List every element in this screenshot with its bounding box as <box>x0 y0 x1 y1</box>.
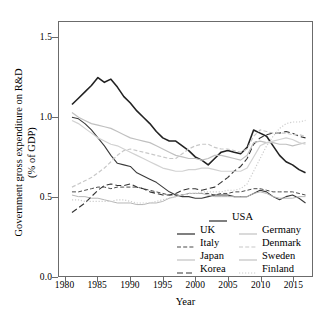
x-tick-mark <box>228 277 229 282</box>
legend-entry-germany: Germany <box>238 223 308 236</box>
y-tick-mark <box>52 277 58 278</box>
x-tick-mark <box>195 277 196 282</box>
series-line-sweden <box>72 120 306 171</box>
x-tick-mark <box>293 277 294 282</box>
y-axis-title-line2: (% of GDP) <box>25 23 38 283</box>
legend-entry-usa: USA <box>176 210 308 223</box>
series-line-germany <box>72 112 306 160</box>
x-tick-mark <box>65 277 66 282</box>
chart-figure: 0.00.51.01.5 Government gross expenditur… <box>0 0 331 327</box>
legend-entry-denmark: Denmark <box>238 236 308 249</box>
legend-label-germany: Germany <box>262 224 301 236</box>
legend-sample-japan <box>176 251 196 261</box>
x-tick-mark <box>261 277 262 282</box>
y-tick-mark <box>52 117 58 118</box>
y-axis-title: Government gross expenditure on R&D (% o… <box>13 23 38 283</box>
legend-label-italy: Italy <box>200 237 219 249</box>
x-tick-mark <box>97 277 98 282</box>
x-tick-mark <box>163 277 164 282</box>
legend-sample-finland <box>238 264 258 274</box>
legend-entry-korea: Korea <box>176 262 238 275</box>
series-line-japan <box>72 192 306 205</box>
legend-label-japan: Japan <box>200 250 224 262</box>
legend-label-denmark: Denmark <box>262 237 301 249</box>
y-tick-mark <box>52 37 58 38</box>
legend-sample-usa <box>208 212 228 222</box>
x-axis-tick-labels: 19801985199019952000200520102015 <box>0 280 331 294</box>
legend-sample-sweden <box>238 251 258 261</box>
chart-legend: USA UKItalyJapanKorea GermanyDenmarkSwed… <box>176 210 308 275</box>
legend-label-usa: USA <box>232 211 253 223</box>
legend-entry-italy: Italy <box>176 236 238 249</box>
legend-sample-germany <box>238 225 258 235</box>
legend-entry-finland: Finland <box>238 262 308 275</box>
legend-label-korea: Korea <box>200 263 226 275</box>
legend-column-right: GermanyDenmarkSwedenFinland <box>238 223 308 275</box>
legend-entry-japan: Japan <box>176 249 238 262</box>
legend-label-finland: Finland <box>262 263 294 275</box>
y-axis-title-line1: Government gross expenditure on R&D <box>13 69 24 237</box>
legend-entry-sweden: Sweden <box>238 249 308 262</box>
legend-sample-uk <box>176 225 196 235</box>
legend-column-left: UKItalyJapanKorea <box>176 223 238 275</box>
legend-label-sweden: Sweden <box>262 250 295 262</box>
y-tick-mark <box>52 197 58 198</box>
legend-entry-uk: UK <box>176 223 238 236</box>
legend-sample-denmark <box>238 238 258 248</box>
x-tick-mark <box>130 277 131 282</box>
series-line-uk <box>72 117 306 203</box>
legend-sample-italy <box>176 238 196 248</box>
x-axis-title: Year <box>58 296 313 308</box>
legend-sample-korea <box>176 264 196 274</box>
